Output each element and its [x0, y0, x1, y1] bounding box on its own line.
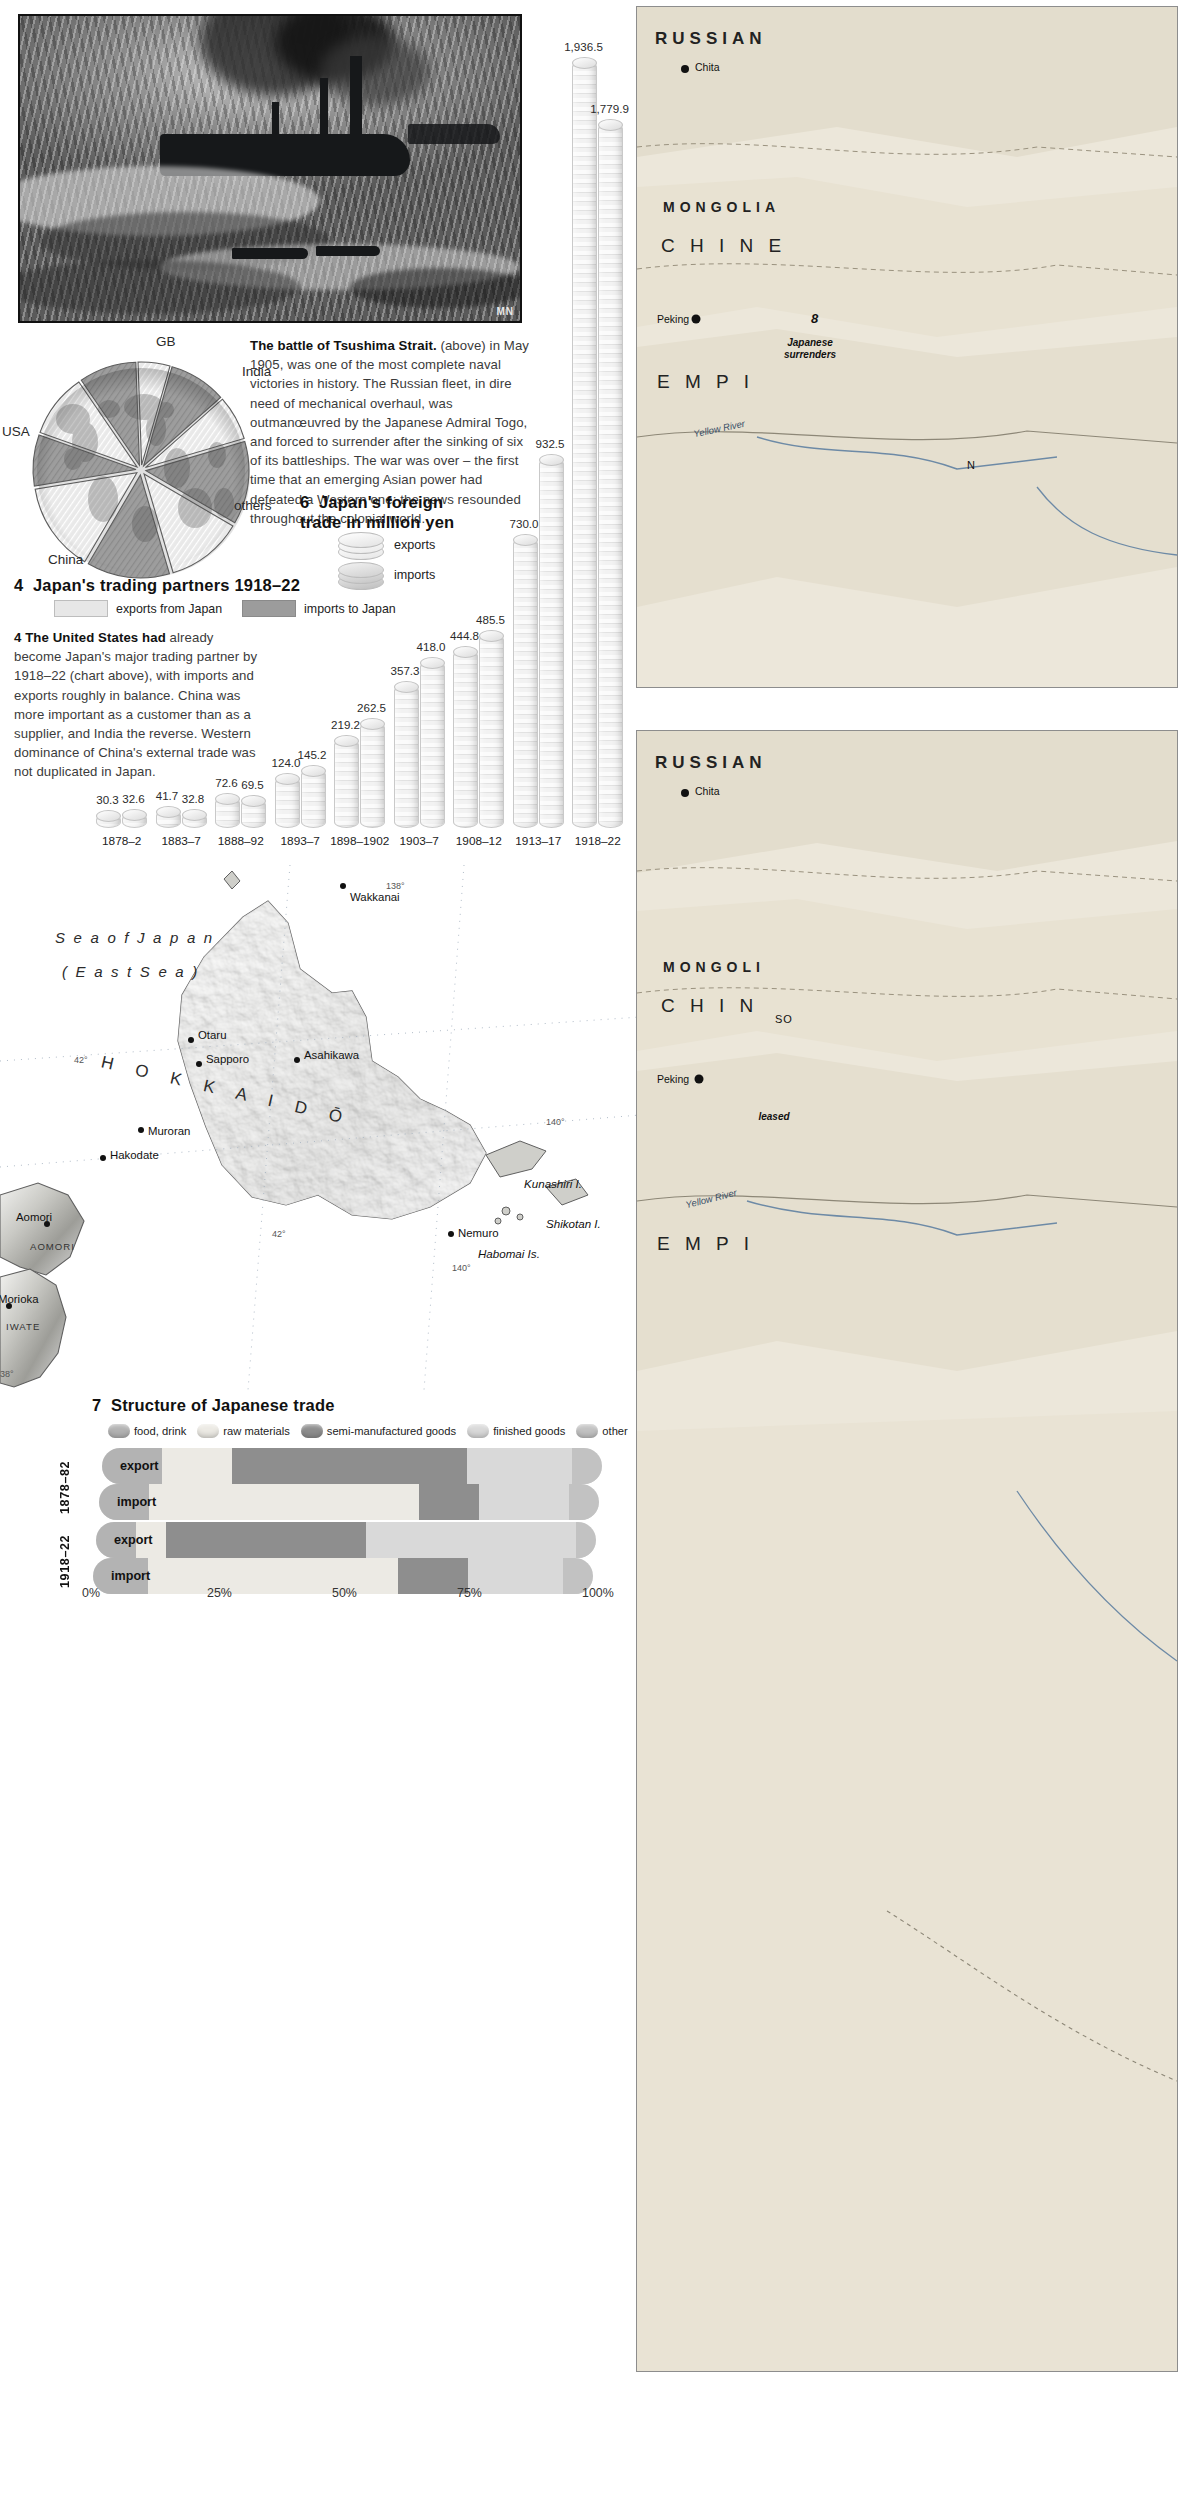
figure7-axis-tick: 0%	[82, 1586, 100, 1600]
trade-bar[interactable]	[360, 722, 385, 828]
city-label-morioka: Morioka	[0, 1293, 39, 1305]
trade-bar[interactable]	[96, 814, 121, 828]
annotation-number-8: 8	[811, 313, 818, 325]
country-label-mongolia-bottom: MONGOLI	[663, 959, 765, 975]
trade-bar[interactable]	[420, 661, 445, 828]
trade-bar[interactable]	[479, 634, 504, 828]
country-label-chinese-top: C H I N E	[661, 235, 786, 257]
figure7-legend-swatch	[197, 1424, 219, 1438]
coord-138-top: 138°	[386, 881, 405, 891]
trade-bar[interactable]	[513, 538, 538, 828]
east-asia-map-bottom[interactable]: RUSSIAN Chita MONGOLI C H I N SO Peking …	[636, 730, 1178, 2372]
figure7-legend-label: finished goods	[493, 1425, 565, 1437]
trade-bar[interactable]	[394, 685, 419, 828]
figure7-axis: 0%25%50%75%100%	[92, 1586, 612, 1606]
trade-bar[interactable]	[334, 739, 359, 828]
city-label-hakodate: Hakodate	[110, 1149, 159, 1161]
city-label-peking-bottom: Peking	[657, 1073, 689, 1085]
trade-bar[interactable]	[182, 813, 207, 828]
city-label-chita-bottom: Chita	[695, 785, 720, 797]
figure7-legend-item: finished goods	[467, 1424, 565, 1438]
sea-of-japan-label-line2: ( E a s t S e a )	[62, 963, 199, 980]
structure-bar-label: export	[120, 1459, 159, 1473]
annotation-line2: surrenders	[784, 349, 836, 360]
city-dot-nemuro	[448, 1231, 454, 1237]
structure-bar-segment	[467, 1448, 572, 1484]
prefecture-label-iwate: IWATE	[6, 1321, 40, 1332]
figure7-title: 7 Structure of Japanese trade	[92, 1396, 335, 1415]
trade-bar[interactable]	[241, 799, 266, 828]
structure-bar-segment	[149, 1484, 419, 1520]
trade-bar[interactable]	[215, 797, 240, 828]
city-dot-hakodate	[100, 1155, 106, 1161]
trade-bar[interactable]	[156, 810, 181, 828]
structure-bar[interactable]	[102, 1448, 602, 1484]
trade-year-label: 1918–22	[558, 834, 638, 848]
figure7-legend-label: food, drink	[134, 1425, 186, 1437]
east-asia-map-top[interactable]: RUSSIAN Chita MONGOLIA C H I N E Peking …	[636, 6, 1178, 688]
city-label-nemuro: Nemuro	[458, 1227, 499, 1239]
figure7-legend-label: other	[602, 1425, 628, 1437]
city-label-peking-top: Peking	[657, 313, 689, 325]
trade-bar[interactable]	[572, 61, 597, 828]
structure-bar[interactable]	[96, 1522, 596, 1558]
structure-bar-segment	[166, 1522, 366, 1558]
trade-bar-value: 32.8	[173, 792, 214, 805]
trade-bar[interactable]	[275, 777, 300, 828]
trade-bar-value: 932.5	[530, 437, 571, 450]
structure-bar-segment	[569, 1484, 599, 1520]
trade-bar-value: 1,936.5	[563, 40, 604, 53]
figure7-axis-tick: 100%	[582, 1586, 614, 1600]
country-label-empire-top: E M P I	[657, 371, 754, 393]
structure-bar-segment	[232, 1448, 467, 1484]
trade-bar[interactable]	[453, 650, 478, 828]
coord-42-left: 42°	[74, 1055, 88, 1065]
island-label-habomai: Habomai Is.	[478, 1247, 540, 1260]
city-dot-otaru	[188, 1037, 194, 1043]
country-label-mongolia-top: MONGOLIA	[663, 199, 780, 215]
trade-bar-value: 485.5	[470, 613, 511, 626]
annotation-leased: leased	[729, 1111, 819, 1123]
city-label-aomori: Aomori	[16, 1211, 52, 1223]
trade-bar-value: 145.2	[292, 748, 333, 761]
structure-bar-label: export	[114, 1533, 153, 1547]
city-dot-sapporo	[196, 1061, 202, 1067]
coord-42-bottom: 42°	[272, 1229, 286, 1239]
sea-of-japan-label-line1: S e a o f J a p a n	[55, 929, 214, 946]
hokkaido-map[interactable]: S e a o f J a p a n ( E a s t S e a ) H …	[0, 865, 640, 1390]
city-label-asahikawa: Asahikawa	[304, 1049, 359, 1061]
country-label-empire-bottom: E M P I	[657, 1233, 754, 1255]
island-label-shikotan: Shikotan I.	[546, 1217, 601, 1230]
figure7-legend-swatch	[576, 1424, 598, 1438]
structure-bar[interactable]	[99, 1484, 599, 1520]
trade-bar-value: 1,779.9	[589, 102, 630, 115]
trade-bar[interactable]	[598, 123, 623, 828]
structure-bar-label: import	[117, 1495, 156, 1509]
foreign-trade-bar-chart: 30.332.61878–241.732.81883–772.669.51888…	[0, 0, 640, 860]
structure-of-trade-chart: exportimportexportimport1878–821918–22	[92, 1448, 612, 1578]
structure-bar-segment	[479, 1484, 569, 1520]
structure-bar-segment	[576, 1522, 596, 1558]
trade-bar[interactable]	[301, 769, 326, 828]
coord-38: 38°	[0, 1369, 14, 1379]
trade-bar[interactable]	[122, 813, 147, 828]
figure7-legend-swatch	[108, 1424, 130, 1438]
structure-bar-segment	[419, 1484, 479, 1520]
city-label-otaru: Otaru	[198, 1029, 227, 1041]
structure-bar-label: import	[111, 1569, 150, 1583]
figure7-legend-item: food, drink	[108, 1424, 186, 1438]
figure7-legend-item: other	[576, 1424, 628, 1438]
city-label-sapporo: Sapporo	[206, 1053, 249, 1065]
figure7-legend-item: semi-manufactured goods	[301, 1424, 456, 1438]
trade-bar[interactable]	[539, 458, 564, 828]
figure7-legend-item: raw materials	[197, 1424, 290, 1438]
coord-140-bottom: 140°	[452, 1263, 471, 1273]
structure-period-label: 1918–22	[58, 1528, 72, 1588]
figure7-legend-swatch	[467, 1424, 489, 1438]
structure-bar-segment	[366, 1522, 576, 1558]
city-label-muroran: Muroran	[148, 1125, 190, 1137]
prefecture-label-aomori: AOMORI	[30, 1241, 75, 1252]
coord-140-right: 140°	[546, 1117, 565, 1127]
structure-bar-segment	[162, 1448, 232, 1484]
city-dot-wakkanai	[340, 883, 346, 889]
